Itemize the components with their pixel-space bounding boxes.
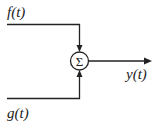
input-g-line — [7, 76, 80, 99]
arrow-down-icon — [77, 45, 83, 52]
sigma-symbol: Σ — [76, 54, 84, 69]
arrow-up-icon — [77, 70, 83, 77]
input-f-label: f(t) — [7, 5, 25, 20]
output-label: y(t) — [126, 67, 147, 82]
input-f-line — [7, 25, 80, 47]
input-g-label: g(t) — [7, 106, 29, 121]
arrow-right-icon — [144, 58, 152, 65]
